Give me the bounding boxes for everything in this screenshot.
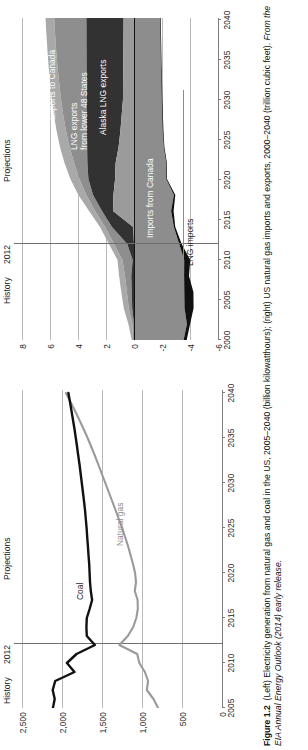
x-tick [218,259,221,260]
left-chart-plot [14,388,224,708]
right-series-label-lng-imports: LNG imports [186,218,195,266]
y-tick-label: 4 [74,344,84,378]
x-tick-label: 2015 [226,598,236,638]
x-tick [218,219,221,220]
series-imports-from-canada [134,18,187,340]
y-tick-label: 2,500 [18,712,28,750]
x-tick [218,99,221,100]
x-tick-label: 2010 [226,643,236,683]
x-tick-label: 2020 [222,160,232,200]
x-tick [218,19,221,20]
left-series-label-natural-gas: Natural gas [116,503,125,546]
left-marker-year-label: 2012 [2,645,12,664]
x-tick-label: 2000 [222,320,232,360]
y-tick-label: 2,000 [58,712,68,750]
left-series-label-coal: Coal [76,583,85,600]
x-tick-label: 2030 [222,80,232,120]
x-tick [218,59,221,60]
y-tick-label: -2 [158,344,168,378]
y-tick-label: 6 [46,344,56,378]
figure-caption-block: Figure 1.2 (Left) Electricity generation… [262,4,285,746]
y-tick-label: 8 [18,344,28,378]
right-series-label-imports-canada: Imports from Canada [146,158,155,238]
right-series-label-lng-exports-l48-line1: LNG exports [70,102,79,150]
zero-line [134,18,135,340]
caption-space [262,700,272,705]
x-tick [218,339,221,340]
figure-stage: 2,500 2,000 1,500 1,000 500 0 2005 2010 … [0,0,308,750]
y-tick-label: 500 [178,712,188,750]
x-tick-label: 2005 [222,280,232,320]
series-natural-gas [66,393,158,708]
right-series-label-exports-canada: Exports to Canada [48,50,57,120]
lng-imports-leader-line [183,90,184,270]
x-tick-label: 2035 [226,418,236,458]
x-tick-label: 2030 [226,463,236,503]
x-tick-label: 2015 [222,200,232,240]
x-tick-label: 2035 [222,40,232,80]
x-tick [218,179,221,180]
x-tick [218,299,221,300]
y-tick-label: 1,000 [138,712,148,750]
x-tick-label: 2040 [222,0,232,40]
left-history-label: History [2,677,12,704]
x-tick [218,139,221,140]
right-series-label-lng-exports-l48-line2: from lower 48 States [80,72,89,150]
y-tick-label: 0 [130,344,140,378]
x-tick-label: 2010 [222,240,232,280]
right-marker-year-label: 2012 [2,245,12,264]
right-series-label-alaska-lng-exports: Alaska LNG exports [99,60,108,135]
x-tick-label: 2025 [222,120,232,160]
figure-number: Figure 1.2 [262,705,272,746]
x-tick-label: 2025 [226,508,236,548]
right-projections-label: Projections [2,139,12,182]
y-tick-label: 2 [102,344,112,378]
x-tick-label: 2040 [226,373,236,413]
figure-rotated-canvas: 2,500 2,000 1,500 1,000 500 0 2005 2010 … [0,0,308,750]
figure-caption-text: (Left) Electricity generation from natur… [262,43,272,701]
y-tick-label: 1,500 [98,712,108,750]
x-tick-label: 2005 [226,688,236,728]
left-projections-label: Projections [2,537,12,580]
y-tick-label: -4 [186,344,196,378]
right-history-label: History [2,277,12,304]
x-tick-label: 2020 [226,553,236,593]
right-series-label-exports-mexico: Exports to Mexico [28,53,37,120]
